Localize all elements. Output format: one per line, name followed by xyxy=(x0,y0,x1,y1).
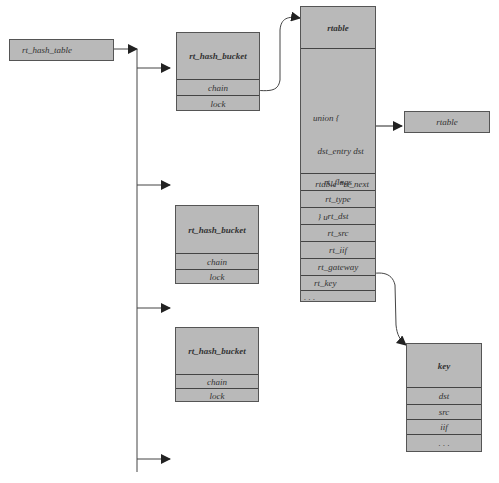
bucket-field-chain: chain xyxy=(176,374,258,388)
next-rtable-box: rtable xyxy=(404,111,490,133)
key-title: key xyxy=(407,344,481,387)
bucket-title: rt_hash_bucket xyxy=(176,328,258,374)
next-rtable-label: rtable xyxy=(405,112,489,132)
rt-hash-table-label: rt_hash_table xyxy=(10,40,113,60)
bucket-field-lock: lock xyxy=(176,269,258,284)
rtable-title: rtable xyxy=(301,7,375,48)
bucket-title: rt_hash_bucket xyxy=(177,33,259,79)
rtable-field-rt-iif: rt_iif xyxy=(301,241,375,258)
bucket-field-chain: chain xyxy=(176,253,258,269)
bucket-title: rt_hash_bucket xyxy=(176,206,258,253)
rtable-field-rt-type: rt_type xyxy=(301,190,375,207)
rt-hash-bucket-3: rt_hash_bucket chain lock xyxy=(175,327,259,402)
key-field-src: src xyxy=(407,404,481,419)
rtable-field-rt-dst: rt_dst xyxy=(301,207,375,224)
bucket-field-lock: lock xyxy=(177,95,259,111)
bucket-field-lock: lock xyxy=(176,388,258,402)
rtable-field-rt-flags: rt_flags xyxy=(301,173,375,190)
key-field-iif: iif xyxy=(407,419,481,434)
union-line: union { xyxy=(313,113,369,124)
rtable-field-ellipsis: . . . xyxy=(301,290,375,302)
rtable-field-rt-src: rt_src xyxy=(301,224,375,241)
rt-hash-bucket-2: rt_hash_bucket chain lock xyxy=(175,205,259,284)
key-field-dst: dst xyxy=(407,387,481,404)
union-line: dst_entry dst xyxy=(313,146,369,157)
key-field-ellipsis: . . . xyxy=(407,434,481,451)
rt-hash-bucket-1: rt_hash_bucket chain lock xyxy=(176,32,260,111)
key-struct: key dst src iif . . . xyxy=(406,343,482,452)
rtable-field-rt-gateway: rt_gateway xyxy=(301,258,375,275)
rtable-field-rt-key: rt_key xyxy=(301,275,375,290)
bucket-field-chain: chain xyxy=(177,79,259,95)
rtable-struct: rtable union { dst_entry dst rtable *rt_… xyxy=(300,6,376,302)
rt-hash-table-box: rt_hash_table xyxy=(9,39,114,61)
